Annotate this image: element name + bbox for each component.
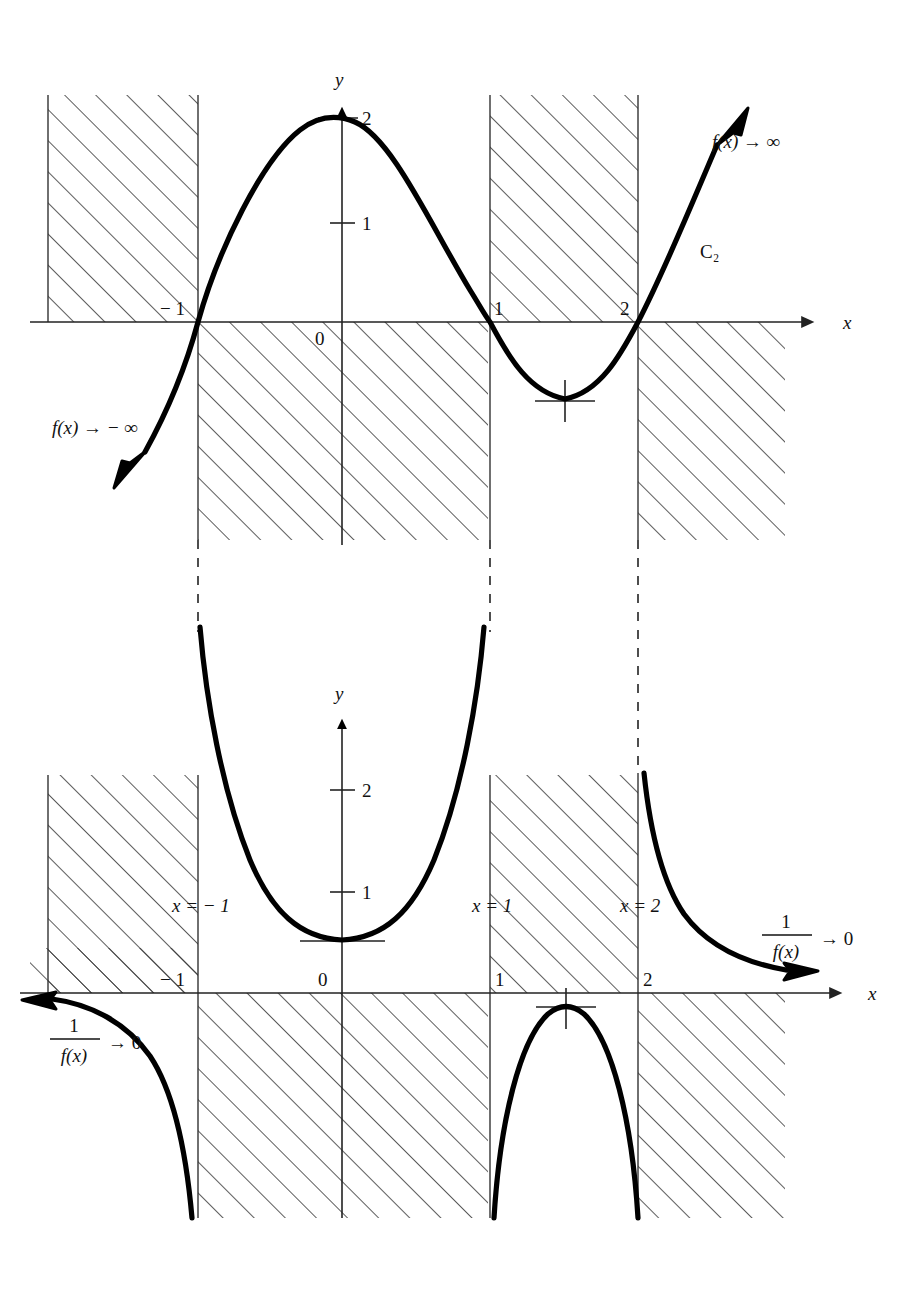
bottom-hatched-regions	[30, 775, 785, 1218]
top-xtick-2: 2	[620, 298, 630, 319]
bottom-annotation-right-denominator: f(x)	[773, 941, 799, 963]
bottom-asymptote-label-2: x = 2	[619, 895, 661, 916]
top-origin-label: 0	[315, 328, 325, 349]
hatch-region-lower-below-right	[638, 993, 785, 1218]
top-xtick-1: 1	[494, 298, 504, 319]
hatch-region-lower-below-left	[198, 993, 488, 1218]
bottom-xtick-2: 2	[643, 969, 653, 990]
bottom-graph: x y 0 − 1 1 2 1 2 x = − 1 x = 1 x = 2	[20, 627, 877, 1218]
hatch-region-bottom-left	[198, 322, 488, 540]
bottom-annotation-right: 1 f(x) → 0	[762, 911, 853, 963]
bottom-annotation-left-denominator: f(x)	[61, 1045, 87, 1067]
bottom-annotation-right-tail: → 0	[820, 928, 853, 949]
top-annotation-right: f(x) → ∞	[712, 131, 780, 153]
asymptote-connectors	[198, 540, 638, 773]
bottom-annotation-right-numerator: 1	[781, 911, 791, 932]
reciprocal-branch-left-arrowhead	[22, 992, 56, 1009]
bottom-asymptote-label-minus1: x = − 1	[171, 895, 230, 916]
bottom-xtick-minus1: − 1	[160, 969, 185, 990]
top-y-axis-label: y	[333, 69, 344, 90]
reciprocal-branch-between-1-and-2	[494, 1007, 638, 1219]
top-hatched-regions	[48, 95, 785, 540]
hatch-region-bottom-right	[638, 322, 785, 540]
hatch-region-top-mid	[490, 95, 638, 322]
reciprocal-branch-right-arrowhead	[784, 963, 818, 980]
bottom-y-axis-label: y	[333, 683, 344, 704]
bottom-ytick-2: 2	[362, 780, 372, 801]
reciprocal-branch-right-of-2	[644, 773, 786, 970]
bottom-annotation-left-tail: → 0	[108, 1032, 141, 1053]
hatch-region-top-left	[48, 95, 198, 322]
bottom-asymptote-label-1: x = 1	[471, 895, 512, 916]
top-x-axis-label: x	[842, 312, 852, 333]
figure-page: x y 0 − 1 1 2 1 2 f(x) → ∞	[0, 0, 919, 1292]
bottom-annotation-left: 1 f(x) → 0	[50, 1015, 141, 1067]
bottom-x-axis-label: x	[867, 983, 877, 1004]
top-ytick-1: 1	[362, 213, 372, 234]
top-xtick-minus1: − 1	[160, 298, 185, 319]
math-figure-svg: x y 0 − 1 1 2 1 2 f(x) → ∞	[0, 0, 919, 1292]
bottom-origin-label: 0	[318, 969, 328, 990]
top-curve-name-label: C₂	[700, 241, 719, 262]
bottom-annotation-left-numerator: 1	[69, 1015, 79, 1036]
bottom-xtick-1: 1	[495, 969, 505, 990]
hatch-region-lower-mid	[490, 775, 638, 993]
top-graph: x y 0 − 1 1 2 1 2 f(x) → ∞	[30, 69, 852, 545]
curve-c2-arrowhead-left	[114, 451, 146, 488]
top-annotation-left: f(x) → − ∞	[52, 417, 138, 439]
bottom-ytick-1: 1	[362, 882, 372, 903]
